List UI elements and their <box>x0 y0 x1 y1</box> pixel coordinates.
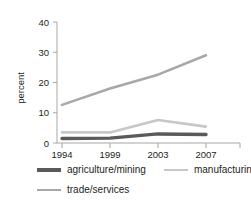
series-line-agriculture-mining <box>62 134 206 139</box>
x-tick-label-1999: 1999 <box>99 149 120 160</box>
legend-swatch-agriculture-mining <box>37 168 61 172</box>
legend-swatch-manufacturing <box>164 169 188 172</box>
line-chart-svg: 40 30 20 10 0 percent 1994 1999 2003 200… <box>0 0 251 160</box>
series-line-manufacturing <box>62 120 206 132</box>
series-line-trade-services <box>62 55 206 105</box>
y-tick-label-0: 0 <box>44 138 49 149</box>
y-tick-label-30: 30 <box>38 47 49 58</box>
chart-figure: 40 30 20 10 0 percent 1994 1999 2003 200… <box>0 0 251 209</box>
legend-swatch-trade-services <box>37 189 61 192</box>
legend-label-trade-services: trade/services <box>67 185 129 195</box>
y-tick-label-20: 20 <box>38 77 49 88</box>
x-tick-label-1994: 1994 <box>51 149 72 160</box>
y-tick-label-40: 40 <box>38 17 49 28</box>
legend-label-manufacturing: manufacturing <box>194 165 251 175</box>
x-tick-marks <box>62 143 240 148</box>
y-tick-label-10: 10 <box>38 107 49 118</box>
legend-item-trade-services: trade/services <box>37 185 129 195</box>
x-tick-label-2007: 2007 <box>195 149 216 160</box>
y-axis-title: percent <box>15 72 26 104</box>
legend-item-manufacturing: manufacturing <box>164 165 251 175</box>
x-tick-label-2003: 2003 <box>147 149 168 160</box>
legend-row-1: agriculture/mining manufacturing <box>0 160 251 180</box>
y-tick-marks <box>53 22 57 143</box>
legend-label-agriculture-mining: agriculture/mining <box>67 165 146 175</box>
legend-row-2: trade/services <box>0 180 251 200</box>
plot-area: 40 30 20 10 0 percent 1994 1999 2003 200… <box>0 0 251 160</box>
chart-legend: agriculture/mining manufacturing trade/s… <box>0 160 251 209</box>
legend-item-agriculture-mining: agriculture/mining <box>37 165 146 175</box>
